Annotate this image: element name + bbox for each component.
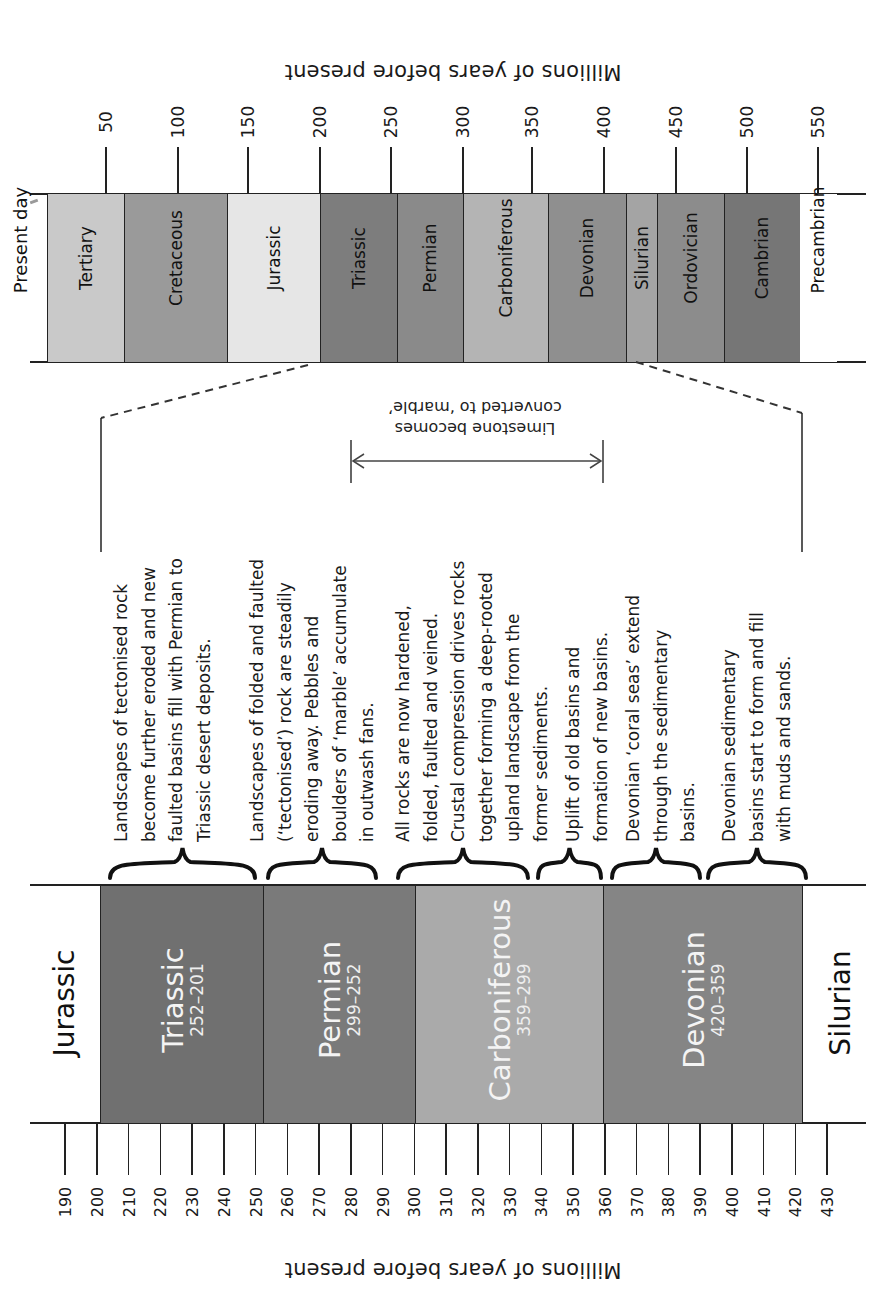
detail-period-name: Devonian (679, 931, 709, 1069)
limestone-annotation: Limestone becomes converted to ‘marble’ (388, 397, 562, 439)
detail-period-text: Carboniferous359–299 (485, 898, 533, 1101)
bottom-tick-mark (96, 1123, 98, 1175)
bottom-tick-label: 310 (437, 1187, 456, 1218)
bottom-tick-mark (509, 1123, 511, 1175)
bottom-tick-mark (668, 1123, 670, 1175)
curly-brace-icon (268, 848, 376, 878)
bottom-tick-label: 330 (500, 1187, 519, 1218)
detail-period-range: 420–359 (709, 931, 727, 1069)
bottom-tick-label: 340 (532, 1187, 551, 1218)
event-description: Uplift of old basins andformation of new… (560, 632, 615, 842)
bottom-tick-label: 270 (310, 1187, 329, 1218)
silurian-side-label: Silurian (824, 950, 857, 1055)
event-description-line: boulders of ‘marble’ accumulate (327, 559, 355, 842)
event-description-line: Triassic desert deposits. (191, 558, 219, 842)
event-description-line: upland landscape from the (500, 561, 528, 842)
bottom-tick-label: 230 (183, 1187, 202, 1218)
detail-period-name: Triassic (158, 947, 188, 1052)
bottom-tick-label: 260 (278, 1187, 297, 1218)
bottom-tick-label: 420 (786, 1187, 805, 1218)
event-description-line: Landscapes of tectonised rock (108, 558, 136, 842)
detail-period-name: Carboniferous (485, 898, 515, 1101)
bottom-tick-label: 190 (56, 1187, 75, 1218)
bottom-tick-label: 290 (373, 1187, 392, 1218)
event-description-line: (‘tectonised’) rock are steadily (272, 559, 300, 842)
jurassic-side-label: Jurassic (48, 949, 81, 1056)
detail-period-name: Permian (315, 941, 345, 1059)
event-description-line: basins start to form and fill (744, 612, 772, 842)
bottom-tick-label: 220 (151, 1187, 170, 1218)
bottom-tick-mark (826, 1123, 828, 1175)
bottom-axis-title: Millions of years before present (284, 1258, 621, 1282)
event-description-line: become further eroded and new (136, 558, 164, 842)
bottom-tick-mark (350, 1123, 352, 1175)
event-description-line: faulted basins fill with Permian to (163, 558, 191, 842)
event-description-line: basins. (675, 595, 703, 842)
bottom-tick-label: 380 (659, 1187, 678, 1218)
event-description: Devonian ‘coral seas’ extendthrough the … (620, 595, 703, 842)
bottom-tick-label: 300 (405, 1187, 424, 1218)
event-description-line: through the sedimentary (648, 595, 676, 842)
bottom-tick-mark (604, 1123, 606, 1175)
event-description-line: former sediments. (528, 561, 556, 842)
event-description-line: Crustal compression drives rocks (445, 561, 473, 842)
event-description-line: Devonian ‘coral seas’ extend (620, 595, 648, 842)
curly-brace-icon (708, 848, 806, 878)
event-description-line: folded, faulted and veined. (418, 561, 446, 842)
event-description-line: Uplift of old basins and (560, 632, 588, 842)
detail-period-range: 299–252 (345, 941, 363, 1059)
bottom-tick-label: 210 (119, 1187, 138, 1218)
bottom-tick-mark (445, 1123, 447, 1175)
event-description-line: Landscapes of folded and faulted (244, 559, 272, 842)
detail-period-range: 359–299 (515, 898, 533, 1101)
bottom-tick-mark (795, 1123, 797, 1175)
bottom-tick-mark (191, 1123, 193, 1175)
bottom-tick-mark (572, 1123, 574, 1175)
detail-period-text: Devonian420–359 (679, 931, 727, 1069)
bottom-tick-mark (731, 1123, 733, 1175)
curly-brace-icon (612, 848, 700, 878)
bottom-tick-mark (128, 1123, 130, 1175)
detail-period-text: Triassic252–201 (158, 947, 206, 1052)
annotation-line-2: converted to ‘marble’ (388, 397, 562, 418)
bottom-tick-label: 350 (564, 1187, 583, 1218)
event-description-line: in outwash fans. (354, 559, 382, 842)
event-description-line: together forming a deep-rooted (473, 561, 501, 842)
event-description: Devonian sedimentarybasins start to form… (716, 612, 799, 842)
event-description-line: with muds and sands. (771, 612, 799, 842)
event-description-line: formation of new basins. (588, 632, 616, 842)
bottom-tick-mark (699, 1123, 701, 1175)
bottom-tick-label: 390 (691, 1187, 710, 1218)
bottom-tick-label: 200 (87, 1187, 106, 1218)
bottom-tick-mark (223, 1123, 225, 1175)
bottom-tick-mark (255, 1123, 257, 1175)
bottom-tick-label: 430 (818, 1187, 837, 1218)
bottom-tick-mark (541, 1123, 543, 1175)
event-description-line: Devonian sedimentary (716, 612, 744, 842)
event-description: All rocks are now hardened,folded, fault… (390, 561, 555, 842)
bottom-tick-label: 280 (341, 1187, 360, 1218)
bottom-tick-label: 400 (722, 1187, 741, 1218)
curly-brace-icon (110, 848, 255, 878)
bottom-tick-label: 320 (468, 1187, 487, 1218)
bottom-tick-label: 370 (627, 1187, 646, 1218)
bottom-tick-mark (287, 1123, 289, 1175)
annotation-line-1: Limestone becomes (388, 418, 562, 439)
curly-brace-icon (538, 848, 601, 878)
bottom-tick-mark (318, 1123, 320, 1175)
bottom-tick-mark (763, 1123, 765, 1175)
event-description-line: eroding away. Pebbles and (299, 559, 327, 842)
bottom-tick-label: 240 (214, 1187, 233, 1218)
bottom-tick-mark (382, 1123, 384, 1175)
detail-period-text: Permian299–252 (315, 941, 363, 1059)
bottom-tick-label: 250 (246, 1187, 265, 1218)
bottom-tick-mark (64, 1123, 66, 1175)
bottom-tick-label: 410 (754, 1187, 773, 1218)
event-description: Landscapes of tectonised rockbecome furt… (108, 558, 218, 842)
event-description-line: All rocks are now hardened, (390, 561, 418, 842)
bottom-tick-mark (160, 1123, 162, 1175)
curly-brace-icon (398, 848, 528, 878)
bottom-tick-mark (636, 1123, 638, 1175)
bottom-tick-label: 360 (595, 1187, 614, 1218)
detail-period-range: 252–201 (188, 947, 206, 1052)
